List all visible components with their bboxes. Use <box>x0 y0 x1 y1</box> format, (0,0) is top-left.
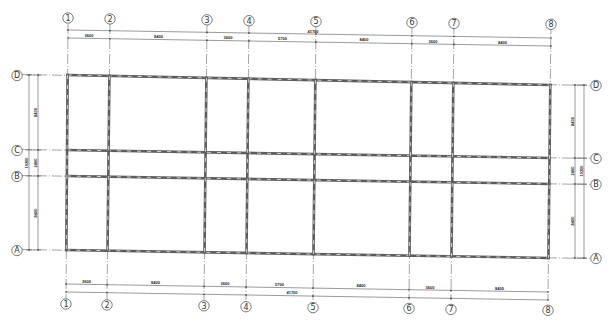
grid-bubble-bottom-8-label: 8 <box>545 306 550 315</box>
grid-bubble-right-B-label: B <box>593 180 599 189</box>
left-total-dim-value: 19200 <box>24 157 29 169</box>
bottom-dim-tick <box>408 297 410 299</box>
right-dim-tick <box>583 257 585 259</box>
bottom-dim-value: 8400 <box>151 280 161 285</box>
grid-bubble-top-8: 8 <box>546 19 556 29</box>
beam-col-4 <box>247 79 249 253</box>
top-dim-tick <box>67 29 69 31</box>
grid-bubble-top-4: 4 <box>244 16 254 26</box>
bottom-dim-tick <box>203 293 205 295</box>
left-dim-value: 2400 <box>33 158 38 168</box>
top-dim-tick <box>453 36 455 38</box>
left-dim-value: 8400 <box>33 208 38 218</box>
grid-bubble-top-2: 2 <box>105 14 115 24</box>
grid-bubble-left-D-label: D <box>14 71 20 80</box>
left-dim-tick <box>28 74 30 76</box>
beam-col-2 <box>108 76 110 251</box>
beam-col-6 <box>409 82 411 256</box>
bottom-dim-tick <box>245 286 247 288</box>
top-dim-value: 3600 <box>429 39 439 44</box>
bottom-dim-tick <box>408 289 410 291</box>
right-dim-value: 8400 <box>570 116 575 126</box>
grid-bubble-top-4-label: 4 <box>246 17 251 26</box>
top-dim-value: 3600 <box>224 35 234 40</box>
left-dim-tick <box>28 249 30 251</box>
grid-bubble-top-6-label: 6 <box>409 18 414 27</box>
grid-bubble-top-3-label: 3 <box>204 16 209 25</box>
bottom-total-dim-line <box>66 292 548 300</box>
beam-row-D-core <box>68 75 551 85</box>
bottom-segment-dim-line <box>66 284 548 292</box>
bottom-dim-tick <box>312 287 314 289</box>
grid-bubble-top-2-label: 2 <box>107 15 112 24</box>
grid-bubble-bottom-2: 2 <box>102 300 112 310</box>
beam-row-C-core <box>67 150 549 158</box>
top-dim-tick <box>550 45 552 47</box>
grid-bubble-bottom-3: 3 <box>199 301 209 311</box>
grid-bubble-bottom-8: 8 <box>543 305 553 315</box>
grid-bubble-top-7: 7 <box>449 18 459 28</box>
beam-col-1 <box>66 75 67 250</box>
top-dim-tick <box>206 40 208 42</box>
grid-bubble-bottom-3-label: 3 <box>201 302 206 311</box>
grid-bubble-left-C-label: C <box>14 146 20 155</box>
beam-col-7 <box>451 83 453 256</box>
bottom-dim-tick <box>245 294 247 296</box>
right-total-dim-value: 19200 <box>579 165 584 177</box>
grid-bubble-right-B: B <box>591 179 601 189</box>
grid-bubble-top-7-label: 7 <box>451 19 456 28</box>
top-dim-tick <box>453 44 455 46</box>
top-dim-tick <box>248 40 250 42</box>
beam-layout <box>66 75 550 258</box>
beam-col-3 <box>205 78 207 252</box>
beam-col-8 <box>548 85 550 258</box>
top-dim-tick <box>550 37 552 39</box>
grid-bubble-right-C: C <box>591 153 601 163</box>
bottom-dim-value: 8400 <box>495 286 505 291</box>
right-dim-tick <box>583 84 585 86</box>
grid-bubble-bottom-5-label: 5 <box>310 303 315 312</box>
bottom-dim-tick <box>547 291 549 293</box>
top-dim-tick <box>109 38 111 40</box>
grid-bubble-right-A-label: A <box>593 254 599 263</box>
top-dim-tick <box>411 35 413 37</box>
grid-bubble-top-8-label: 8 <box>548 20 553 29</box>
top-dim-value: 8400 <box>360 37 370 42</box>
grid-bubble-bottom-1: 1 <box>61 299 71 309</box>
top-dim-tick <box>109 30 111 32</box>
top-segment-dim-line <box>68 38 551 46</box>
grid-bubbles: 1122334455667788DDCCBBAA <box>12 13 601 316</box>
structural-grid-plan: 3600840036005700840036008400417003600840… <box>0 0 612 327</box>
grid-bubble-bottom-7-label: 7 <box>448 305 453 314</box>
right-dim-value: 8400 <box>570 216 575 226</box>
grid-bubble-right-A: A <box>591 253 601 263</box>
beam-col-5 <box>313 80 315 254</box>
grid-bubble-bottom-5: 5 <box>308 302 318 312</box>
grid-bubble-top-3: 3 <box>202 15 212 25</box>
grid-bubble-bottom-6-label: 6 <box>406 304 411 313</box>
top-dim-tick <box>206 32 208 34</box>
grid-bubble-left-A: A <box>12 245 22 255</box>
bottom-dim-tick <box>450 298 452 300</box>
grid-bubble-right-C-label: C <box>593 154 599 163</box>
bottom-total-dim-value: 41700 <box>286 290 298 295</box>
grid-bubble-left-C: C <box>12 145 22 155</box>
bottom-dim-tick <box>547 299 549 301</box>
bottom-dim-value: 3600 <box>82 279 92 284</box>
grid-bubble-bottom-1-label: 1 <box>63 300 68 309</box>
grid-bubble-top-5-label: 5 <box>313 17 318 26</box>
bottom-dim-tick <box>106 284 108 286</box>
grid-bubble-top-5: 5 <box>311 16 321 26</box>
beam-row-B-core <box>67 176 549 184</box>
grid-bubble-bottom-4-label: 4 <box>243 303 248 312</box>
top-dim-value: 8400 <box>498 40 508 45</box>
grid-bubble-bottom-7: 7 <box>446 304 456 314</box>
right-dim-value: 2400 <box>570 166 575 176</box>
bottom-dim-tick <box>203 285 205 287</box>
bottom-dim-tick <box>65 283 67 285</box>
grid-bubble-right-D: D <box>591 80 601 90</box>
grid-bubble-right-D-label: D <box>593 81 599 90</box>
bottom-dim-tick <box>312 295 314 297</box>
top-dim-value: 8400 <box>154 34 164 39</box>
bottom-dim-value: 3600 <box>426 285 436 290</box>
